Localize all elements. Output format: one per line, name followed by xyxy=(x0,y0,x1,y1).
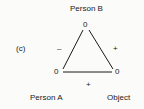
node-value-person-a: 0 xyxy=(54,67,58,77)
edge-sign-right: + xyxy=(113,44,118,54)
edge-sign-left: – xyxy=(57,44,61,54)
edge-sign-bottom: + xyxy=(86,80,91,90)
edge-personA-personB xyxy=(63,30,83,69)
edge-personB-object xyxy=(89,30,113,69)
node-label-person-a: Person A xyxy=(30,93,62,103)
panel-label: (c) xyxy=(16,44,25,54)
node-label-person-b: Person B xyxy=(70,4,103,14)
node-value-person-b: 0 xyxy=(83,20,87,30)
node-label-object: Object xyxy=(107,93,130,103)
balance-triangle-diagram: Person B 0 (c) – + 0 0 + Person A Object xyxy=(0,0,144,109)
node-value-object: 0 xyxy=(115,67,119,77)
